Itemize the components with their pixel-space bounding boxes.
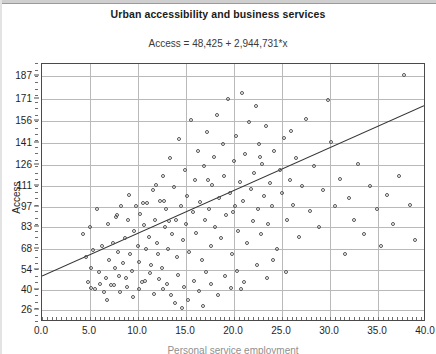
scatter-point [130, 269, 134, 273]
x-axis-minor-tick [148, 317, 149, 320]
scatter-point [304, 117, 308, 121]
x-axis-tick-label: 10.0 [127, 325, 146, 336]
x-axis-tick-label: 20.0 [223, 325, 242, 336]
x-axis-minor-tick [157, 317, 158, 320]
chart-title: Urban accessibility and business service… [0, 8, 436, 20]
scatter-point [255, 263, 259, 267]
scatter-point [202, 164, 206, 168]
scatter-point [144, 247, 148, 251]
scatter-point [209, 282, 213, 286]
x-axis-minor-tick [47, 317, 48, 320]
scatter-point [291, 203, 295, 207]
x-axis-minor-tick [407, 317, 408, 320]
x-axis-minor-tick [138, 317, 139, 320]
scatter-point [95, 207, 99, 211]
scatter-point [368, 184, 372, 188]
scatter-point [385, 193, 389, 197]
scatter-point [147, 235, 151, 239]
scatter-point [210, 183, 214, 187]
scatter-point [288, 178, 292, 182]
scatter-point [284, 270, 288, 274]
scatter-point [149, 263, 153, 267]
y-axis-minor-tick [35, 192, 38, 193]
x-axis-minor-tick [167, 317, 168, 320]
scatter-point [86, 280, 90, 284]
y-axis-minor-tick [35, 308, 38, 309]
scatter-point [158, 199, 162, 203]
scatter-point [183, 168, 187, 172]
scatter-point [170, 232, 174, 236]
scatter-point [98, 282, 102, 286]
scatter-point [184, 222, 188, 226]
scatter-point [212, 155, 216, 159]
y-axis-minor-tick [35, 321, 38, 322]
x-axis-minor-tick [359, 317, 360, 320]
scatter-point [233, 204, 237, 208]
x-axis-tick-label: 30.0 [319, 325, 338, 336]
scatter-point [125, 285, 129, 289]
x-axis-minor-tick [344, 317, 345, 320]
x-axis-tick-label: 25.0 [271, 325, 290, 336]
scatter-point [216, 293, 220, 297]
scatter-point [105, 298, 109, 302]
x-axis-minor-tick [412, 317, 413, 320]
scatter-point [219, 236, 223, 240]
scatter-point [136, 244, 140, 248]
x-axis-minor-tick [52, 317, 53, 320]
x-axis-minor-tick [224, 317, 225, 320]
x-axis-minor-tick [56, 317, 57, 320]
x-axis-minor-tick [287, 317, 288, 320]
x-axis-minor-tick [268, 317, 269, 320]
scatter-point [138, 212, 142, 216]
x-axis-minor-tick [340, 317, 341, 320]
y-axis-minor-tick [35, 89, 38, 90]
scatter-point [198, 200, 202, 204]
x-axis-minor-tick [71, 317, 72, 320]
scatter-point [317, 225, 321, 229]
y-axis-minor-tick [35, 134, 38, 135]
x-axis-minor-tick [42, 317, 43, 320]
x-axis-minor-tick [95, 317, 96, 320]
scatter-point [116, 250, 120, 254]
scatter-point [226, 97, 230, 101]
scatter-point [249, 187, 253, 191]
x-axis-minor-tick [277, 317, 278, 320]
scatter-point [186, 298, 190, 302]
x-axis-minor-tick [128, 317, 129, 320]
scatter-point [264, 124, 268, 128]
scatter-point [169, 293, 173, 297]
scatter-point [132, 229, 136, 233]
scatter-point [173, 301, 177, 305]
x-axis-minor-tick [244, 317, 245, 320]
x-axis-minor-tick [263, 317, 264, 320]
y-axis-minor-tick [35, 211, 38, 212]
x-axis-minor-tick [172, 317, 173, 320]
y-axis-minor-tick [35, 218, 38, 219]
y-axis-minor-tick [35, 128, 38, 129]
scatter-point [326, 98, 330, 102]
plot-area [41, 63, 425, 321]
scatter-point [204, 270, 208, 274]
y-axis-tick-label: 68 [21, 243, 32, 254]
y-axis-tick-label: 26 [21, 304, 32, 315]
scatter-point [362, 232, 366, 236]
x-axis-minor-tick [191, 317, 192, 320]
scatter-point [117, 274, 121, 278]
scatter-point [391, 222, 395, 226]
y-axis-tick-label: 54 [21, 263, 32, 274]
scatter-point [343, 252, 347, 256]
y-axis-minor-tick [35, 63, 38, 64]
y-axis-minor-tick [35, 108, 38, 109]
x-axis-minor-tick [124, 317, 125, 320]
x-axis-minor-tick [402, 317, 403, 320]
scatter-point [379, 244, 383, 248]
scatter-point [185, 194, 189, 198]
y-axis-minor-tick [35, 70, 38, 71]
scatter-point [177, 137, 181, 141]
scatter-point [224, 213, 228, 217]
scatter-point [196, 149, 200, 153]
y-axis-minor-tick [35, 263, 38, 264]
x-axis-minor-tick [100, 317, 101, 320]
x-axis-minor-tick [421, 317, 422, 320]
x-axis-minor-tick [292, 317, 293, 320]
